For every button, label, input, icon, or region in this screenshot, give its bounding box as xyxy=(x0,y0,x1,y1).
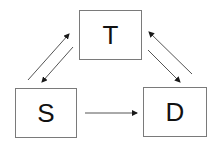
diagram-canvas: T S D xyxy=(0,0,218,147)
edge-t-to-d-arrow xyxy=(148,50,180,82)
node-s-label: S xyxy=(37,100,54,126)
edge-d-to-t-arrow xyxy=(149,32,192,74)
edge-t-to-s-arrow xyxy=(42,47,73,82)
node-t-label: T xyxy=(103,22,119,48)
node-s: S xyxy=(15,88,77,138)
node-d-label: D xyxy=(166,99,185,125)
edge-s-to-t-arrow xyxy=(28,34,69,80)
node-t: T xyxy=(79,10,142,60)
node-d: D xyxy=(143,87,207,137)
